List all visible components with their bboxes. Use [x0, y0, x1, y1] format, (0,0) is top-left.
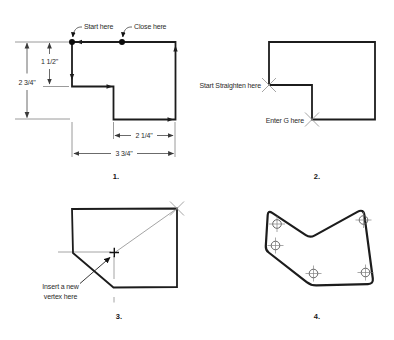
figure-2-plain-outline: Start Straighten here Enter G here 2. — [200, 42, 375, 181]
start-here-label: Start here — [84, 23, 113, 30]
figure-4-bracket-plate: 4. — [266, 211, 374, 321]
close-here-leader — [123, 27, 132, 37]
direction-arrow-right-step-icon — [107, 84, 113, 88]
start-straighten-label: Start Straighten here — [200, 82, 262, 90]
hole-marker-icon — [268, 238, 284, 254]
direction-arrow-left-icon — [76, 40, 82, 44]
construction-diagonal-line — [116, 209, 178, 253]
start-here-leader — [73, 27, 82, 37]
close-here-label: Close here — [134, 23, 167, 30]
direction-arrow-right-bottom-icon — [168, 117, 174, 121]
dim-inner-width-label: 2 1/4" — [136, 132, 154, 139]
l-shape-outline — [269, 42, 375, 120]
dim-inner-height-label: 1 1/2" — [41, 58, 59, 65]
insert-vertex-label-line1: Insert a new — [42, 283, 79, 290]
figure-4-number: 4. — [314, 312, 320, 321]
l-shape-outline — [72, 42, 176, 120]
dim-overall-height-label: 2 3/4" — [19, 79, 37, 86]
start-point-dot — [69, 39, 75, 45]
figure-3-vertex-insert: Insert a new vertex here 3. — [42, 202, 184, 322]
hole-marker-icon — [356, 212, 372, 228]
vertex-plus-marker-icon — [110, 248, 120, 257]
hole-marker-icon — [306, 266, 322, 282]
bracket-outline — [266, 211, 373, 286]
drawing-page: Start here Close here 1 1/2" 2 3/4" 2 1/… — [0, 0, 394, 340]
direction-arrow-up-icon — [173, 46, 177, 52]
close-point-dot — [119, 39, 125, 45]
figure-1-dimensioned-outline: Start here Close here 1 1/2" 2 3/4" 2 1/… — [15, 23, 178, 181]
pentagon-outline — [72, 209, 177, 288]
direction-arrow-down-icon — [70, 74, 74, 80]
insert-vertex-label-line2: vertex here — [44, 293, 78, 300]
enter-g-label: Enter G here — [266, 117, 305, 124]
dim-overall-width-label: 3 3/4" — [116, 150, 134, 157]
hole-marker-icon — [269, 216, 285, 232]
figure-canvas: Start here Close here 1 1/2" 2 3/4" 2 1/… — [0, 0, 394, 340]
figure-2-number: 2. — [314, 172, 320, 181]
figure-1-number: 1. — [113, 172, 119, 181]
figure-3-number: 3. — [116, 312, 122, 321]
